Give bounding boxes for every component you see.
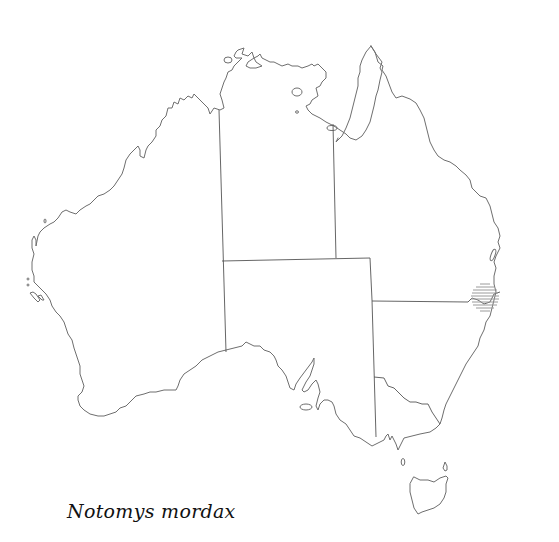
cape-york-peninsula: [336, 46, 371, 142]
border-sa-qld: [370, 258, 372, 300]
gulf-small-island: [296, 111, 299, 113]
kimberley-islet: [44, 219, 46, 223]
border-wa-east: [219, 110, 226, 352]
border-nt-qld: [333, 124, 336, 258]
fraser-island: [489, 249, 497, 262]
tiwi-islands: [224, 57, 232, 63]
species-title: Notomys mordax: [67, 500, 236, 522]
kangaroo-island: [300, 404, 312, 410]
border-sa-nsw-vic: [372, 300, 376, 437]
king-island: [401, 459, 405, 466]
border-nsw-vic: [374, 377, 440, 424]
shark-bay-islet-2: [27, 284, 29, 286]
australia-map: [0, 0, 559, 542]
groote-eylandt-island: [292, 88, 302, 96]
shark-bay-peninsula: [30, 292, 44, 302]
mornington-island: [327, 126, 337, 131]
tasmania-coastline: [410, 476, 448, 514]
border-nt-sa: [222, 258, 370, 261]
mainland-coastline: [32, 46, 500, 450]
state-borders: [219, 110, 500, 437]
flinders-island: [443, 462, 447, 471]
shark-bay-islet-1: [27, 278, 29, 280]
